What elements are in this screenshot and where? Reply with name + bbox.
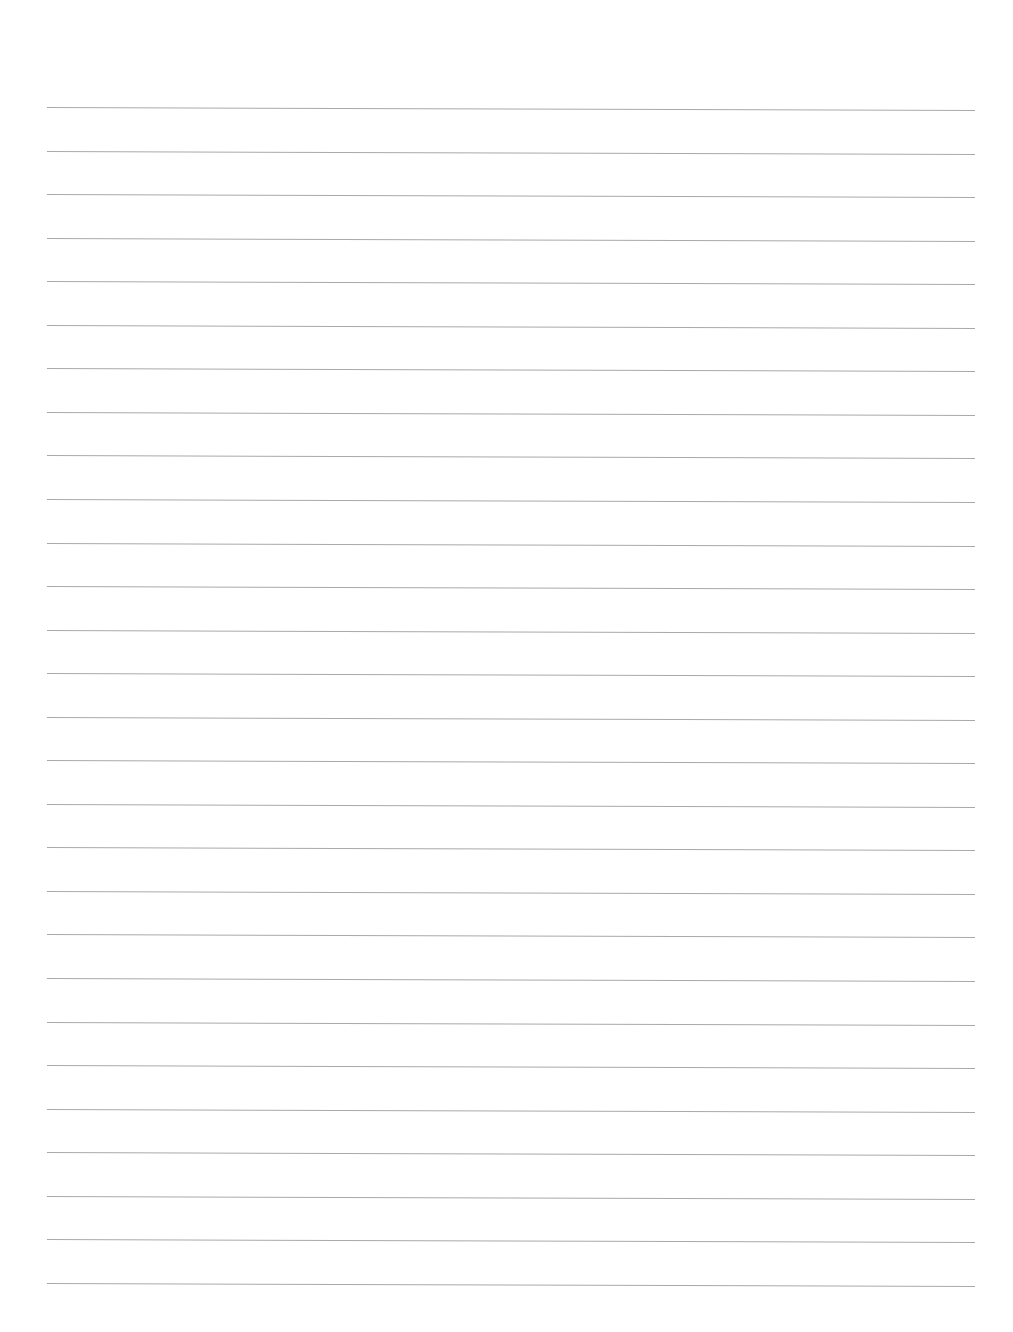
ruled-line (47, 151, 975, 155)
ruled-line (47, 891, 975, 895)
ruled-line (47, 281, 975, 285)
ruled-line (47, 1239, 975, 1243)
ruled-line (47, 543, 975, 547)
ruled-line (47, 412, 975, 416)
ruled-line (47, 1196, 975, 1200)
ruled-line (47, 194, 975, 198)
ruled-line (47, 717, 975, 721)
ruled-line (47, 1022, 975, 1026)
ruled-line (47, 499, 975, 503)
ruled-line (47, 325, 975, 329)
ruled-line (47, 1152, 975, 1156)
ruled-line (47, 978, 975, 982)
ruled-line (47, 673, 975, 677)
ruled-line (47, 847, 975, 851)
ruled-line (47, 1065, 975, 1069)
ruled-line (47, 455, 975, 459)
ruled-line (47, 586, 975, 590)
ruled-line (47, 804, 975, 808)
ruled-line (47, 1109, 975, 1113)
ruled-line (47, 107, 975, 111)
ruled-line (47, 238, 975, 242)
lined-paper-page (0, 0, 1013, 1332)
ruled-line (47, 368, 975, 372)
ruled-line (47, 630, 975, 634)
ruled-line (47, 760, 975, 764)
ruled-line (47, 934, 975, 938)
ruled-line (47, 1283, 975, 1287)
